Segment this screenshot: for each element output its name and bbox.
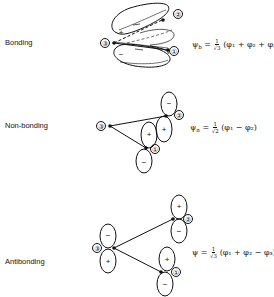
bonding-diagram xyxy=(101,3,183,67)
sign-minus: − xyxy=(177,227,182,236)
sign-plus: + xyxy=(119,28,124,37)
atom-label-2: ② xyxy=(175,11,181,18)
sign-plus: + xyxy=(177,202,182,211)
sign-minus: − xyxy=(142,158,147,167)
atom-label-3: ③ xyxy=(102,40,108,47)
sign-minus: − xyxy=(163,280,168,289)
atom-label-2: ② xyxy=(185,216,191,223)
atom-label-1: ① xyxy=(152,146,158,153)
atom-label-3: ③ xyxy=(98,123,104,130)
equation-antibonding: ψ = 1 √3 (φ₁ + φ₂ − φ₃) xyxy=(192,246,274,259)
equation-non-bonding: ψn = 1 √2 (φ₁ − φ₂) xyxy=(190,121,257,134)
sign-minus: − xyxy=(167,99,172,108)
sign-plus: + xyxy=(162,125,167,134)
equation-bonding: ψb = 1 √3 (φ₁ + φ₂ + φ₃) xyxy=(192,38,274,51)
sign-plus: + xyxy=(106,257,111,266)
atom-label-3: ③ xyxy=(94,245,100,252)
sign-minus: − xyxy=(106,231,111,240)
sign-plus: + xyxy=(165,255,170,264)
sign-minus: − xyxy=(119,50,124,59)
sign-plus: + xyxy=(147,130,152,139)
atom-label-1: ① xyxy=(171,48,177,55)
atom-label-1: ① xyxy=(173,269,179,276)
atom-label-2: ② xyxy=(176,112,182,119)
